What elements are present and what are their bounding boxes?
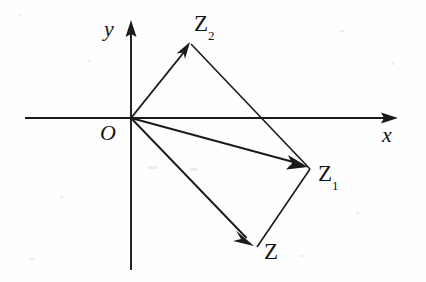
point-label-z2-subscript: 2 bbox=[208, 28, 215, 43]
axes-group bbox=[25, 20, 398, 270]
vectors-group bbox=[131, 42, 308, 246]
vector-o-z2-shaft bbox=[131, 49, 187, 118]
construction-group bbox=[191, 44, 310, 247]
vector-o-z-arrowhead bbox=[233, 231, 254, 247]
origin-label: O bbox=[100, 122, 116, 144]
point-label-z1-subscript: 1 bbox=[332, 178, 339, 193]
vector-o-z1-shaft bbox=[131, 118, 297, 163]
point-label-z-base: Z bbox=[264, 239, 278, 264]
y-axis-label: y bbox=[104, 18, 114, 40]
point-label-z1: Z1 bbox=[318, 162, 339, 189]
point-label-z2: Z2 bbox=[194, 12, 215, 39]
edge-z-to-z1 bbox=[257, 169, 310, 247]
point-label-z2-base: Z bbox=[194, 11, 208, 36]
x-axis-label: x bbox=[382, 124, 392, 146]
point-label-z1-base: Z bbox=[318, 161, 332, 186]
vector-o-z-shaft bbox=[131, 118, 247, 238]
vector-o-z1-arrowhead bbox=[286, 155, 308, 170]
figure-canvas: y x O Z2 Z1 Z bbox=[0, 0, 426, 282]
point-label-z: Z bbox=[264, 240, 278, 267]
vector-o-z2-arrowhead bbox=[177, 42, 191, 59]
